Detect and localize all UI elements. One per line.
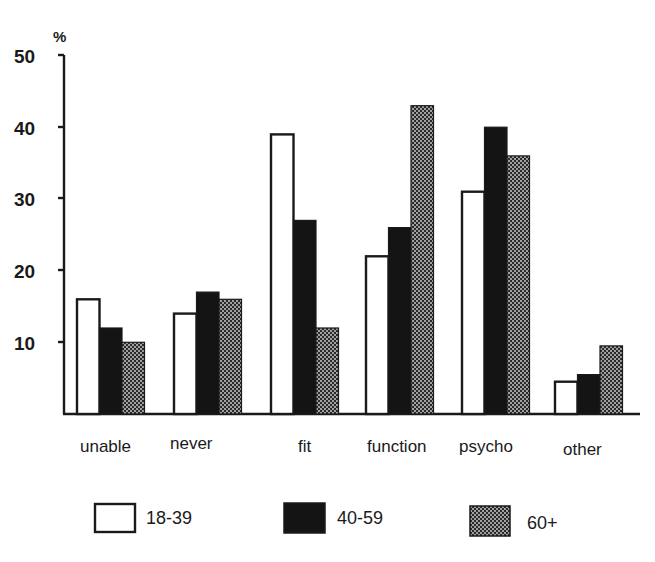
legend-item-40-59: 40-59	[284, 503, 383, 533]
y-axis-unit-label: %	[53, 28, 66, 45]
legend-item-60-plus: 60+	[470, 506, 558, 536]
category-label-never: never	[170, 434, 213, 453]
bar-never-40-59	[197, 292, 220, 414]
category-label-function: function	[367, 437, 427, 456]
bar-function-60-plus	[411, 106, 434, 414]
y-tick-label-20: 20	[14, 261, 35, 282]
bar-function-40-59	[389, 228, 412, 414]
legend-label-40-59: 40-59	[337, 508, 383, 528]
bar-unable-40-59	[100, 328, 123, 414]
bar-function-18-39	[366, 256, 389, 414]
legend-label-18-39: 18-39	[146, 508, 192, 528]
bar-other-60-plus	[600, 346, 623, 414]
bar-psycho-40-59	[485, 127, 508, 414]
y-tick-label-40: 40	[14, 118, 35, 139]
bars	[77, 106, 623, 414]
bar-fit-18-39	[271, 134, 294, 414]
bar-never-60-plus	[219, 299, 242, 414]
bar-psycho-60-plus	[507, 156, 530, 414]
bar-other-40-59	[578, 375, 601, 414]
bar-unable-18-39	[77, 299, 100, 414]
legend-swatch-white	[95, 504, 135, 532]
legend: 18-39 40-59 60+	[95, 503, 558, 536]
bar-psycho-18-39	[462, 192, 485, 414]
legend-swatch-dotted	[470, 506, 510, 536]
category-label-other: other	[563, 440, 602, 459]
bar-fit-40-59	[294, 220, 317, 414]
legend-swatch-black	[284, 503, 325, 533]
category-label-fit: fit	[298, 437, 312, 456]
bar-unable-60-plus	[122, 342, 145, 414]
y-tick-label-10: 10	[14, 333, 35, 354]
legend-label-60-plus: 60+	[527, 513, 558, 533]
x-axis-category-labels: unable never fit function psycho other	[80, 434, 602, 459]
bar-never-18-39	[174, 314, 197, 414]
y-tick-label-30: 30	[14, 189, 35, 210]
axes	[58, 55, 640, 414]
bar-fit-60-plus	[316, 328, 339, 414]
category-label-psycho: psycho	[459, 437, 513, 456]
y-tick-label-50: 50	[14, 46, 35, 67]
bar-chart: % 50 40 30 20 10 unable never fit functi…	[0, 0, 655, 562]
category-label-unable: unable	[80, 437, 131, 456]
legend-item-18-39: 18-39	[95, 504, 192, 532]
bar-other-18-39	[555, 382, 578, 414]
y-axis-tick-labels: 50 40 30 20 10	[14, 46, 35, 354]
